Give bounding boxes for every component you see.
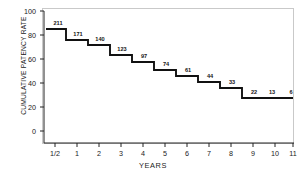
x-tick-label-11: 11 (289, 150, 296, 157)
x-tick-label-6: 6 (185, 150, 189, 157)
x-axis-title: YEARS (0, 161, 306, 170)
x-tick-label-1: 1 (75, 150, 79, 157)
x-tick-label-8: 8 (229, 150, 233, 157)
x-tick-label-7: 7 (207, 150, 211, 157)
x-tick-label-5: 5 (163, 150, 167, 157)
patency-rate-chart: CUMULATIVE PATENCY RATE 100 80 60 40 20 … (0, 0, 306, 186)
x-tick-label-2: 2 (97, 150, 101, 157)
x-axis-tick-labels: 1/2 1 2 3 4 5 6 7 8 9 10 11 (0, 0, 306, 186)
x-tick-label-10: 10 (271, 150, 279, 157)
x-tick-label-3: 3 (119, 150, 123, 157)
x-tick-label-9: 9 (251, 150, 255, 157)
x-tick-label-half: 1/2 (50, 150, 60, 157)
x-tick-label-4: 4 (141, 150, 145, 157)
